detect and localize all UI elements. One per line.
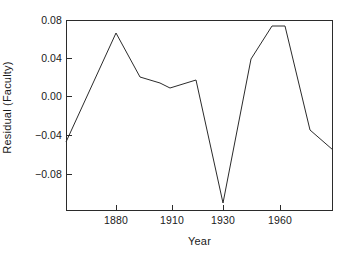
x-tick-mark-1 [172,205,173,211]
x-axis-title: Year [66,235,333,248]
plot-area [66,20,333,211]
x-tick-mark-3 [280,205,281,211]
y-tick-label-2: 0.00 [6,91,62,102]
x-tick-label-0: 1880 [88,215,144,226]
x-tick-label-1: 1910 [144,215,200,226]
x-tick-mark-2 [223,205,224,211]
y-tick-label-1: 0.04 [6,53,62,64]
y-tick-label-3: −0.04 [6,130,62,141]
x-tick-label-2: 1930 [195,215,251,226]
chart-figure: Residual (Faculty) 0.08 0.04 0.00 −0.04 … [0,0,345,258]
y-tick-label-0: 0.08 [6,15,62,26]
y-tick-label-4: −0.08 [6,169,62,180]
x-tick-mark-0 [116,205,117,211]
residual-faculty-line [66,26,333,203]
x-tick-label-3: 1960 [252,215,308,226]
